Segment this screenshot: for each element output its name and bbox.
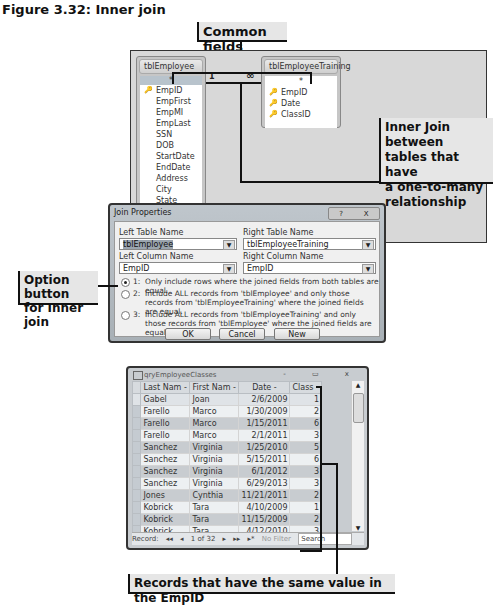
- cell-last-name[interactable]: Gabel: [141, 394, 190, 406]
- left-table-select[interactable]: tblEmployee ▼: [119, 238, 237, 250]
- select-all[interactable]: [133, 382, 141, 394]
- right-table-select[interactable]: tblEmployeeTraining ▼: [243, 238, 376, 250]
- cell-last-name[interactable]: Kobrick: [141, 502, 190, 514]
- radio-button[interactable]: [121, 290, 130, 299]
- chevron-down-icon[interactable]: ▼: [362, 240, 374, 250]
- close-button[interactable]: X: [364, 210, 369, 218]
- record-selector[interactable]: [133, 430, 141, 442]
- table-row[interactable]: SanchezVirginia5/15/20116: [133, 454, 322, 466]
- search-input[interactable]: Search: [298, 533, 352, 545]
- new-record-button[interactable]: ▸*: [248, 535, 255, 543]
- field-ssn[interactable]: SSN: [140, 129, 202, 140]
- cell-last-name[interactable]: Jones: [141, 490, 190, 502]
- new-button[interactable]: New: [274, 328, 320, 340]
- record-selector[interactable]: [133, 442, 141, 454]
- record-position[interactable]: 1 of 32: [191, 535, 216, 543]
- field-empfirst[interactable]: EmpFirst: [140, 96, 202, 107]
- cell-class[interactable]: 3: [290, 466, 322, 478]
- field-empmi[interactable]: EmpMI: [140, 107, 202, 118]
- cell-class[interactable]: 6: [290, 454, 322, 466]
- record-selector[interactable]: [133, 490, 141, 502]
- cell-date[interactable]: 4/10/2009: [239, 502, 290, 514]
- cell-last-name[interactable]: Farello: [141, 418, 190, 430]
- all-fields-star[interactable]: *: [140, 76, 202, 85]
- cell-class[interactable]: 5: [290, 442, 322, 454]
- prev-record-button[interactable]: ◂: [180, 535, 184, 543]
- table-row[interactable]: KobrickTara11/15/20092: [133, 514, 322, 526]
- cell-first-name[interactable]: Marco: [190, 418, 239, 430]
- table-row[interactable]: FarelloMarco2/1/20113: [133, 430, 322, 442]
- cell-last-name[interactable]: Sanchez: [141, 466, 190, 478]
- table-row[interactable]: SanchezVirginia1/25/20105: [133, 442, 322, 454]
- table-row[interactable]: SanchezVirginia6/1/20123: [133, 466, 322, 478]
- cell-date[interactable]: 6/1/2012: [239, 466, 290, 478]
- table-row[interactable]: KobrickTara4/10/20091: [133, 502, 322, 514]
- chevron-down-icon[interactable]: ▼: [362, 264, 374, 274]
- restore-button[interactable]: ▭: [312, 370, 331, 378]
- cell-last-name[interactable]: Kobrick: [141, 514, 190, 526]
- chevron-down-icon[interactable]: ▼: [223, 264, 235, 274]
- vertical-scrollbar[interactable]: ▲ ▼: [351, 381, 364, 531]
- cell-last-name[interactable]: Sanchez: [141, 442, 190, 454]
- table-row[interactable]: FarelloMarco1/30/20092: [133, 406, 322, 418]
- scroll-down-icon[interactable]: ▼: [352, 524, 364, 531]
- no-filter-button[interactable]: No Filter: [262, 535, 291, 543]
- cell-date[interactable]: 2/1/2011: [239, 430, 290, 442]
- cell-first-name[interactable]: Cynthia: [190, 490, 239, 502]
- cell-first-name[interactable]: Virginia: [190, 454, 239, 466]
- record-selector[interactable]: [133, 454, 141, 466]
- cell-first-name[interactable]: Virginia: [190, 466, 239, 478]
- last-record-button[interactable]: ▸▸: [233, 535, 240, 543]
- cancel-button[interactable]: Cancel: [219, 328, 265, 340]
- field-startdate[interactable]: StartDate: [140, 151, 202, 162]
- help-button[interactable]: ?: [339, 210, 343, 218]
- record-selector[interactable]: [133, 394, 141, 406]
- column-header-date[interactable]: Date -: [239, 382, 290, 394]
- cell-date[interactable]: 1/15/2011: [239, 418, 290, 430]
- record-selector[interactable]: [133, 514, 141, 526]
- record-selector[interactable]: [133, 478, 141, 490]
- table-row[interactable]: FarelloMarco1/15/20116: [133, 418, 322, 430]
- cell-class[interactable]: 1: [290, 394, 322, 406]
- next-record-button[interactable]: ▸: [223, 535, 227, 543]
- field-empid[interactable]: 🔑EmpID: [265, 87, 337, 98]
- field-emplast[interactable]: EmpLast: [140, 118, 202, 129]
- cell-date[interactable]: 11/15/2009: [239, 514, 290, 526]
- cell-class[interactable]: 3: [290, 478, 322, 490]
- scroll-up-icon[interactable]: ▲: [352, 381, 364, 388]
- field-classid[interactable]: 🔑ClassID: [265, 109, 337, 120]
- cell-first-name[interactable]: Joan: [190, 394, 239, 406]
- cell-last-name[interactable]: Farello: [141, 430, 190, 442]
- cell-class[interactable]: 2: [290, 406, 322, 418]
- join-line[interactable]: [206, 82, 261, 84]
- record-selector[interactable]: [133, 418, 141, 430]
- close-button[interactable]: x: [345, 370, 361, 378]
- cell-last-name[interactable]: Sanchez: [141, 478, 190, 490]
- field-dob[interactable]: DOB: [140, 140, 202, 151]
- cell-last-name[interactable]: Farello: [141, 406, 190, 418]
- cell-date[interactable]: 1/30/2009: [239, 406, 290, 418]
- cell-date[interactable]: 11/21/2011: [239, 490, 290, 502]
- field-empid[interactable]: 🔑EmpID: [140, 85, 202, 96]
- table-tblEmployeeTraining[interactable]: tblEmployeeTraining * 🔑EmpID🔑Date🔑ClassI…: [261, 56, 341, 128]
- cell-first-name[interactable]: Tara: [190, 502, 239, 514]
- record-selector[interactable]: [133, 406, 141, 418]
- minimize-button[interactable]: -: [283, 370, 298, 378]
- scroll-thumb[interactable]: [353, 393, 364, 423]
- radio-button[interactable]: [121, 278, 130, 287]
- chevron-down-icon[interactable]: ▼: [223, 240, 235, 250]
- record-selector[interactable]: [133, 502, 141, 514]
- cell-first-name[interactable]: Marco: [190, 406, 239, 418]
- field-date[interactable]: 🔑Date: [265, 98, 337, 109]
- first-record-button[interactable]: ◂◂: [166, 535, 173, 543]
- cell-last-name[interactable]: Sanchez: [141, 454, 190, 466]
- right-column-select[interactable]: EmpID ▼: [243, 262, 376, 274]
- cell-first-name[interactable]: Virginia: [190, 478, 239, 490]
- all-fields-star[interactable]: *: [265, 76, 337, 87]
- table-row[interactable]: JonesCynthia11/21/20112: [133, 490, 322, 502]
- cell-date[interactable]: 1/25/2010: [239, 442, 290, 454]
- field-enddate[interactable]: EndDate: [140, 162, 202, 173]
- cell-class[interactable]: 3: [290, 430, 322, 442]
- cell-date[interactable]: 2/6/2009: [239, 394, 290, 406]
- cell-class[interactable]: 2: [290, 514, 322, 526]
